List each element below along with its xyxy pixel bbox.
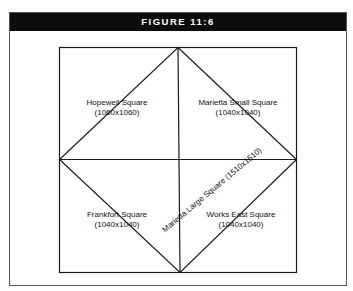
region-name: Hopewell Square: [87, 98, 148, 108]
region-size: (1040x1040): [207, 220, 276, 230]
region-name: Marietta Small Square: [198, 98, 277, 108]
region-name: Works East Square: [207, 210, 276, 220]
region-size: (1060x1060): [87, 108, 148, 118]
region-size: (1040x1040): [87, 220, 147, 230]
region-marietta-small: Marietta Small Square (1040x1040): [198, 98, 277, 118]
region-frankfort: Frankfort Square (1040x1040): [87, 210, 147, 230]
region-works-east: Works East Square (1040x1040): [207, 210, 276, 230]
region-name: Frankfort Square: [87, 210, 147, 220]
region-size: (1040x1040): [198, 108, 277, 118]
square-diagram: [0, 0, 353, 291]
region-hopewell: Hopewell Square (1060x1060): [87, 98, 148, 118]
